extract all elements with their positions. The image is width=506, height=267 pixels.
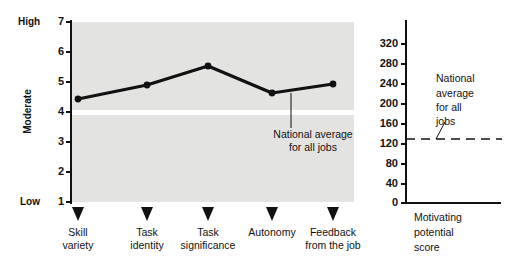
mps-annotation-line1: National xyxy=(436,72,475,85)
data-point-marker xyxy=(75,96,82,103)
mps-x-axis-label-line2: potential xyxy=(414,226,454,239)
national-average-annotation-line1: National average xyxy=(258,128,368,141)
job-dimensions-chart-panel: 7 6 5 4 3 2 1 High Moderate Low National… xyxy=(0,0,372,267)
mps-annotation-line4: jobs xyxy=(436,115,455,128)
data-point-marker xyxy=(205,63,212,70)
x-tick-marker-feedback xyxy=(327,207,339,221)
x-tick-marker-skill-variety xyxy=(72,207,84,221)
x-category-label-task-significance-line2: significance xyxy=(165,239,251,252)
data-point-marker xyxy=(144,82,151,89)
national-average-annotation-line2: for all jobs xyxy=(258,141,368,154)
data-point-marker xyxy=(330,81,337,88)
motivating-potential-score-chart-panel: 320 280 240 200 160 120 80 40 0 National… xyxy=(372,0,506,267)
x-tick-marker-task-significance xyxy=(202,207,214,221)
data-series-line xyxy=(78,66,333,99)
data-point-marker xyxy=(269,90,276,97)
x-category-label-feedback-line1: Feedback xyxy=(290,226,376,239)
mps-x-axis-label-line3: score xyxy=(414,241,440,254)
mps-annotation-line2: average xyxy=(436,87,474,100)
x-category-label-feedback-line2: from the job xyxy=(290,239,376,252)
job-characteristics-figure: 7 6 5 4 3 2 1 High Moderate Low National… xyxy=(0,0,506,267)
x-tick-marker-autonomy xyxy=(266,207,278,221)
x-tick-marker-task-identity xyxy=(141,207,153,221)
mps-annotation-line3: for all xyxy=(436,101,462,114)
mps-x-axis-label-line1: Motivating xyxy=(414,211,462,224)
